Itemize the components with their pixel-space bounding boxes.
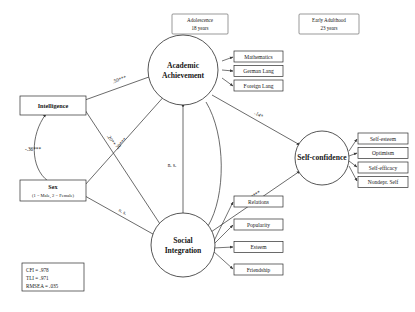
indicator-optimism-label: Optimism <box>372 150 395 156</box>
indicator-popularity-label: Popularity <box>247 222 270 228</box>
period-header-early-adulthood: Early Adulthood 23 years <box>299 14 359 34</box>
indicator-mathematics: Mathematics <box>234 51 283 62</box>
indicator-friendship-label: Friendship <box>247 267 271 273</box>
sex-label: Sex <box>48 183 58 190</box>
node-self-confidence: Self-confidence <box>295 131 349 185</box>
coef-intelligence-to-academic: .50*** <box>112 74 128 85</box>
coef-academic-to-selfconfidence: .14* <box>254 109 265 119</box>
sem-canvas: Adolescence 18 years Early Adulthood 23 … <box>0 0 415 312</box>
node-social-integration: Social Integration <box>151 213 215 277</box>
indicator-foreign-lang-label: Foreign Lang <box>244 83 274 89</box>
indicator-popularity: Popularity <box>234 219 283 230</box>
indicator-esteem: Esteem <box>234 242 283 253</box>
social-integration-line1: Social <box>173 236 192 245</box>
path-sex-to-social: n. s. <box>85 196 160 238</box>
node-academic-achievement: Academic Achievement <box>148 35 218 105</box>
indicator-nondepr-self: Nondepr. Self <box>358 177 408 188</box>
node-sex: Sex (1 = Male, 2 = Female) <box>20 180 86 201</box>
indicator-nondepr-self-label: Nondepr. Self <box>368 179 399 185</box>
coef-sex-to-intelligence: -.36*** <box>25 146 41 152</box>
academic-achievement-line2: Achievement <box>162 71 205 80</box>
sem-diagram: Adolescence 18 years Early Adulthood 23 … <box>0 0 415 312</box>
indicator-self-efficacy: Self-efficacy <box>358 162 408 173</box>
social-integration-line2: Integration <box>165 246 202 255</box>
path-academic-social-curve <box>206 102 221 226</box>
self-confidence-label: Self-confidence <box>297 153 347 162</box>
path-sex-to-academic: .20*** <box>85 93 167 185</box>
coef-sex-to-academic: .20*** <box>114 136 128 151</box>
academic-achievement-line1: Academic <box>167 61 200 70</box>
coef-academic-to-social: n. s. <box>168 162 177 168</box>
indicator-lines-social <box>213 202 233 269</box>
indicator-friendship: Friendship <box>234 264 283 275</box>
indicator-relations: Relations <box>234 196 283 207</box>
indicator-relations-label: Relations <box>248 199 269 205</box>
indicator-german-lang-label: German Lang <box>243 68 274 74</box>
path-academic-to-selfconfidence: .14* <box>212 95 300 145</box>
intelligence-label: Intelligence <box>38 102 69 109</box>
node-intelligence: Intelligence <box>20 96 86 115</box>
indicator-mathematics-label: Mathematics <box>244 54 272 60</box>
indicator-german-lang: German Lang <box>234 66 283 77</box>
period-header-adolescence: Adolescence 18 years <box>172 14 228 34</box>
period-adolescence-line2: 18 years <box>191 25 208 31</box>
fit-stat-tli: TLI = .971 <box>26 275 49 281</box>
indicator-esteem-label: Esteem <box>250 244 267 250</box>
period-early-adulthood-line2: 23 years <box>320 25 337 31</box>
path-academic-to-social: n. s. <box>168 108 183 221</box>
indicator-self-efficacy-label: Self-efficacy <box>369 165 398 171</box>
indicator-lines-selfconfidence <box>349 139 357 181</box>
indicator-foreign-lang: Foreign Lang <box>234 80 283 91</box>
path-sex-to-intelligence: -.36*** <box>25 114 48 181</box>
coef-sex-to-social: n. s. <box>118 207 128 216</box>
period-adolescence-line1: Adolescence <box>187 17 214 23</box>
fit-stat-cfi: CFI = .978 <box>26 267 49 273</box>
fit-statistics-box: CFI = .978 TLI = .971 RMSEA = .035 <box>22 263 84 291</box>
period-early-adulthood-line1: Early Adulthood <box>312 17 346 23</box>
fit-stat-rmsea: RMSEA = .035 <box>26 283 59 289</box>
indicator-optimism: Optimism <box>358 148 408 159</box>
indicator-lines-academic <box>222 57 233 86</box>
indicator-self-esteem-label: Self-esteem <box>370 136 397 142</box>
indicator-self-esteem: Self-esteem <box>358 133 408 144</box>
